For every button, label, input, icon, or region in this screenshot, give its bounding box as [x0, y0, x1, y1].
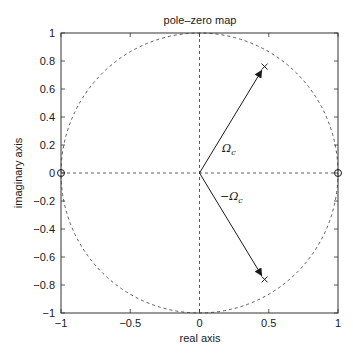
pole-marker: [262, 276, 268, 282]
y-axis-label: imaginary axis: [12, 137, 24, 208]
y-tick-label: 0.6: [40, 83, 55, 95]
y-tick-label: −0.6: [33, 251, 55, 263]
x-tick-label: −0.5: [119, 317, 141, 329]
x-tick-label: 0: [196, 317, 202, 329]
y-tick-label: 0: [49, 167, 55, 179]
y-tick-label: 0.4: [40, 111, 55, 123]
chart-title: pole–zero map: [164, 14, 237, 26]
y-tick-label: −1: [42, 307, 55, 319]
y-tick-label: −0.4: [33, 223, 55, 235]
x-tick-label: −1: [55, 317, 68, 329]
neg-omega-c-label: −Ωc: [220, 190, 243, 205]
x-axis-label: real axis: [180, 332, 221, 344]
y-tick-label: −0.8: [33, 279, 55, 291]
omega-c-arrow: [200, 71, 262, 173]
x-tick-label: 1: [335, 317, 341, 329]
x-tick-label: 0.5: [261, 317, 276, 329]
y-tick-label: 1: [49, 27, 55, 39]
pole-zero-chart: pole–zero map −1−0.500.5110.80.60.40.20−…: [0, 0, 353, 353]
omega-c-label: Ωc: [221, 142, 236, 157]
plot-area: −1−0.500.5110.80.60.40.20−0.2−0.4−0.6−0.…: [33, 27, 341, 329]
pole-marker: [262, 64, 268, 70]
neg-omega-c-arrow: [200, 173, 262, 275]
y-tick-label: 0.2: [40, 139, 55, 151]
y-tick-label: −0.2: [33, 195, 55, 207]
y-tick-label: 0.8: [40, 55, 55, 67]
